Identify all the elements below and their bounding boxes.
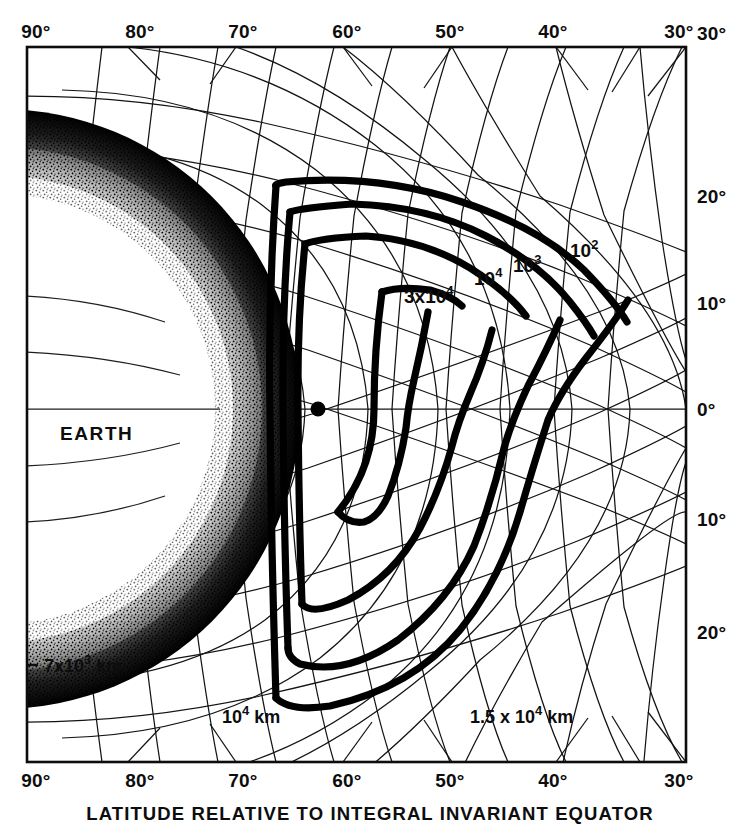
contour-1e4-mantissa: 10	[474, 268, 495, 289]
range-label-1e4: 104 km	[222, 703, 280, 727]
contour-1e2-exponent: 2	[591, 237, 598, 252]
range-1e4-unit: km	[249, 707, 280, 727]
earth-label: EARTH	[60, 423, 133, 444]
svg-text:7x103 km: 7x103 km	[44, 652, 122, 676]
range-7e3-exponent: 3	[84, 652, 91, 667]
equator-marker-dot	[311, 402, 326, 417]
top-tick-80: 80°	[125, 21, 154, 42]
bottom-tick-80: 80°	[125, 770, 154, 791]
bottom-tick-50: 50°	[435, 770, 464, 791]
right-tick-10-south: 10°	[697, 509, 726, 530]
radiation-belt-contour-plot: EARTH 3x104 104 103 102 7x103 km 104 km …	[0, 0, 741, 835]
contour-1e3-exponent: 3	[534, 252, 541, 267]
contour-3e4-mantissa: 3x10	[404, 286, 446, 307]
right-tick-10-north: 10°	[697, 293, 726, 314]
contour-1e3-mantissa: 10	[513, 255, 534, 276]
top-tick-40: 40°	[538, 21, 567, 42]
range-7e3-unit: km	[91, 656, 122, 676]
bottom-tick-90: 90°	[21, 770, 50, 791]
contour-1e4-exponent: 4	[495, 265, 503, 280]
right-tick-0: 0°	[697, 399, 716, 420]
bottom-tick-60: 60°	[332, 770, 361, 791]
figure-container: EARTH 3x104 104 103 102 7x103 km 104 km …	[0, 0, 741, 835]
contour-1e2-mantissa: 10	[570, 240, 591, 261]
top-tick-70: 70°	[228, 21, 257, 42]
range-1p5e4-prefix: 1.5 x 10	[470, 707, 535, 727]
range-1e4-prefix: 10	[222, 707, 242, 727]
svg-text:104 km: 104 km	[222, 703, 280, 727]
right-tick-20-north: 20°	[697, 186, 726, 207]
right-tick-30-north: 30°	[697, 23, 726, 44]
range-1p5e4-unit: km	[542, 707, 573, 727]
range-label-7e3: 7x103 km	[44, 652, 122, 676]
bottom-tick-30: 30°	[664, 770, 693, 791]
right-tick-20-south: 20°	[697, 622, 726, 643]
top-tick-90: 90°	[21, 21, 50, 42]
range-label-1p5e4: 1.5 x 104 km	[470, 703, 573, 727]
top-tick-30: 30°	[664, 21, 693, 42]
axis-caption: LATITUDE RELATIVE TO INTEGRAL INVARIANT …	[86, 803, 653, 824]
contour-3e4-exponent: 4	[446, 283, 454, 298]
bottom-tick-40: 40°	[538, 770, 567, 791]
range-7e3-prefix: 7x10	[44, 656, 84, 676]
svg-text:1.5 x 104 km: 1.5 x 104 km	[470, 703, 573, 727]
bottom-tick-70: 70°	[228, 770, 257, 791]
top-tick-60: 60°	[332, 21, 361, 42]
top-tick-50: 50°	[435, 21, 464, 42]
